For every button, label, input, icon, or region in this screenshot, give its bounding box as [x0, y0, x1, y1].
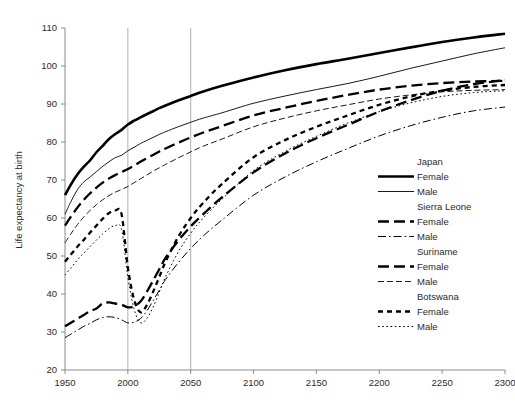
life-expectancy-chart: 19502000205021002150220022502300 2030405…: [0, 0, 515, 405]
x-tick-label: 2200: [369, 377, 390, 388]
x-tick-label: 2100: [243, 377, 264, 388]
y-tick-label: 20: [46, 364, 57, 375]
x-tick-label: 2250: [432, 377, 453, 388]
y-axis-ticks: 2030405060708090100110: [41, 22, 65, 375]
y-tick-label: 60: [46, 212, 57, 223]
x-tick-label: 1950: [54, 377, 75, 388]
x-tick-label: 2150: [306, 377, 327, 388]
x-tick-label: 2000: [117, 377, 138, 388]
y-tick-label: 70: [46, 174, 57, 185]
y-tick-label: 50: [46, 250, 57, 261]
vertical-reference-lines: [128, 28, 191, 370]
y-tick-label: 80: [46, 136, 57, 147]
legend-label-suriname-male: Male: [417, 276, 438, 287]
legend-label-sierra-leone-male: Male: [417, 231, 438, 242]
x-tick-label: 2050: [180, 377, 201, 388]
legend-country-botswana: Botswana: [417, 291, 459, 302]
series-line-botswana-female: [65, 85, 505, 312]
y-tick-label: 110: [42, 22, 57, 33]
legend-country-sierra-leone: Sierra Leone: [417, 201, 471, 212]
y-tick-label: 40: [46, 288, 57, 299]
chart-svg: 19502000205021002150220022502300 2030405…: [0, 0, 515, 405]
legend-label-japan-male: Male: [417, 186, 438, 197]
legend-label-sierra-leone-female: Female: [417, 216, 449, 227]
x-tick-label: 2300: [494, 377, 515, 388]
axes: [65, 28, 505, 370]
legend-label-botswana-female: Female: [417, 306, 449, 317]
y-tick-label: 30: [46, 326, 57, 337]
x-axis-ticks: 19502000205021002150220022502300: [54, 370, 515, 388]
series-line-japan-male: [65, 48, 505, 214]
y-tick-label: 90: [46, 98, 57, 109]
legend-country-japan: Japan: [417, 156, 443, 167]
y-tick-label: 100: [41, 60, 57, 71]
legend-label-suriname-female: Female: [417, 261, 449, 272]
chart-legend: JapanFemaleMaleSierra LeoneFemaleMaleSur…: [378, 156, 471, 332]
y-axis-title: Life expectancy at birth: [13, 151, 24, 249]
legend-label-japan-female: Female: [417, 171, 449, 182]
legend-label-botswana-male: Male: [417, 321, 438, 332]
legend-country-suriname: Suriname: [417, 246, 458, 257]
